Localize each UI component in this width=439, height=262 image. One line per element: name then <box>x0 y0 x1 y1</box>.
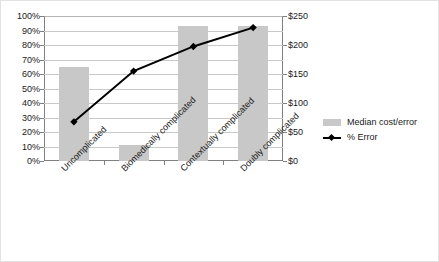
chart-container: 0%10%20%30%40%50%60%70%80%90%100% $0$50$… <box>0 0 439 262</box>
left-axis-tick-mark <box>40 89 44 90</box>
left-axis-tick-label: 50% <box>22 84 40 93</box>
left-axis-tick-mark <box>40 74 44 75</box>
right-axis-tick-mark <box>283 103 287 104</box>
left-axis-tick-label: 70% <box>22 55 40 64</box>
left-axis-tick-label: 0% <box>27 157 40 166</box>
x-axis-tick-mark <box>104 161 105 165</box>
left-axis-tick-label: 40% <box>22 99 40 108</box>
left-axis-tick-mark <box>40 45 44 46</box>
left-axis-tick-label: 90% <box>22 26 40 35</box>
right-axis-tick-mark <box>283 45 287 46</box>
left-axis-tick-mark <box>40 103 44 104</box>
left-axis-tick-mark <box>40 16 44 17</box>
chart-legend: Median cost/error% Error <box>323 115 417 145</box>
x-axis-tick-mark <box>164 161 165 165</box>
left-axis-tick-mark <box>40 118 44 119</box>
right-axis-tick-mark <box>283 161 287 162</box>
legend-item-label: Median cost/error <box>347 118 417 127</box>
left-axis-tick-label: 20% <box>22 128 40 137</box>
legend-item[interactable]: Median cost/error <box>323 115 417 130</box>
left-axis-tick-mark <box>40 132 44 133</box>
left-axis-tick-label: 10% <box>22 142 40 151</box>
left-axis-tick-mark <box>40 161 44 162</box>
plot-area: 0%10%20%30%40%50%60%70%80%90%100% $0$50$… <box>44 16 283 161</box>
legend-swatch-icon <box>323 119 341 126</box>
right-axis-tick-label: $250 <box>288 12 308 21</box>
right-axis-tick-label: $150 <box>288 70 308 79</box>
left-axis-tick-label: 80% <box>22 41 40 50</box>
right-axis-tick-label: $0 <box>288 157 298 166</box>
right-axis-tick-mark <box>283 16 287 17</box>
left-axis-tick-label: 100% <box>17 12 40 21</box>
x-axis-tick-mark <box>223 161 224 165</box>
right-axis-tick-label: $50 <box>288 128 303 137</box>
legend-line-icon <box>323 133 341 142</box>
legend-item-label: % Error <box>347 133 378 142</box>
left-axis-tick-label: 30% <box>22 113 40 122</box>
left-axis-tick-mark <box>40 147 44 148</box>
right-axis-tick-label: $100 <box>288 99 308 108</box>
left-axis-tick-mark <box>40 31 44 32</box>
right-axis-tick-label: $200 <box>288 41 308 50</box>
left-axis-tick-mark <box>40 60 44 61</box>
legend-item[interactable]: % Error <box>323 130 417 145</box>
right-axis-tick-mark <box>283 74 287 75</box>
left-axis-tick-label: 60% <box>22 70 40 79</box>
